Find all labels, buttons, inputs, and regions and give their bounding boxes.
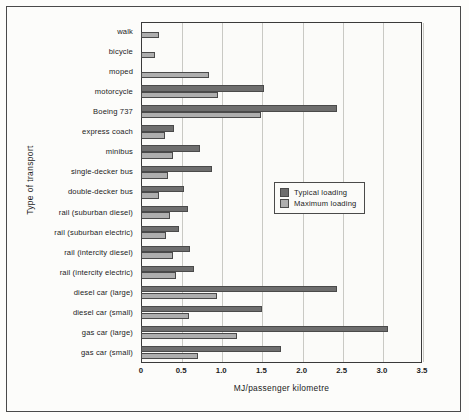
bar-maximum <box>141 52 155 58</box>
bar-maximum <box>141 313 189 319</box>
category-label: bicycle <box>109 42 133 62</box>
bar-typical <box>141 85 264 91</box>
category-label: express coach <box>82 122 133 142</box>
x-tick-label: 2.0 <box>296 366 307 375</box>
bar-typical <box>141 226 179 232</box>
bar-maximum <box>141 92 218 98</box>
category-label: diesel car (small) <box>73 303 133 323</box>
legend-item-typical: Typical loading <box>280 187 357 198</box>
bar-maximum <box>141 232 166 238</box>
category-label: rail (intercity diesel) <box>64 243 133 263</box>
bar-maximum <box>141 32 159 38</box>
bar-typical <box>141 105 337 111</box>
bar-group <box>141 283 422 303</box>
bar-group <box>141 162 422 182</box>
x-tick-label: 3.5 <box>417 366 428 375</box>
bar-maximum <box>141 132 165 138</box>
bar-typical <box>141 125 174 131</box>
bar-group <box>141 102 422 122</box>
bar-typical <box>141 346 281 352</box>
bar-group <box>141 22 422 42</box>
bar-typical <box>141 306 262 312</box>
bar-typical <box>141 166 212 172</box>
bar-typical <box>141 326 388 332</box>
x-tick-label: 0 <box>139 366 143 375</box>
legend: Typical loading Maximum loading <box>274 182 365 214</box>
bar-maximum <box>141 192 159 198</box>
category-axis-labels: walkbicyclemopedmotorcycleBoeing 737expr… <box>30 22 137 363</box>
bar-group <box>141 343 422 363</box>
y-axis-title: Type of transport <box>25 120 35 240</box>
category-label: gas car (large) <box>82 323 133 343</box>
category-label: minibus <box>106 142 133 162</box>
x-tick-label: 2.5 <box>336 366 347 375</box>
bar-group <box>141 142 422 162</box>
bar-maximum <box>141 112 261 118</box>
legend-item-maximum: Maximum loading <box>280 198 357 209</box>
chart-page: walkbicyclemopedmotorcycleBoeing 737expr… <box>0 0 469 420</box>
bar-typical <box>141 246 190 252</box>
bar-typical <box>141 206 188 212</box>
x-tick-label: 1.0 <box>216 366 227 375</box>
category-label: diesel car (large) <box>74 283 133 303</box>
legend-swatch-typical <box>280 188 289 197</box>
legend-label-typical: Typical loading <box>294 188 347 197</box>
bar-maximum <box>141 293 217 299</box>
gridline <box>423 23 424 362</box>
bar-typical <box>141 286 337 292</box>
bar-group <box>141 303 422 323</box>
bar-group <box>141 62 422 82</box>
category-label: Boeing 737 <box>93 102 133 122</box>
x-axis-title: MJ/passenger kilometre <box>141 383 422 393</box>
bar-maximum <box>141 212 170 218</box>
x-tick-label: 0.5 <box>176 366 187 375</box>
category-label: rail (suburban electric) <box>54 223 133 243</box>
bar-maximum <box>141 172 168 178</box>
category-label: rail (suburban diesel) <box>59 203 133 223</box>
bar-maximum <box>141 252 173 258</box>
x-axis-ticks: 00.51.01.52.02.53.03.5 <box>141 366 422 380</box>
category-label: motorcycle <box>95 82 133 102</box>
bar-group <box>141 243 422 263</box>
bar-group <box>141 42 422 62</box>
bar-group <box>141 222 422 242</box>
bar-typical <box>141 186 184 192</box>
bar-maximum <box>141 272 176 278</box>
bar-maximum <box>141 353 198 359</box>
legend-swatch-maximum <box>280 199 289 208</box>
category-label: single-decker bus <box>71 162 133 182</box>
bar-group <box>141 122 422 142</box>
category-label: moped <box>109 62 133 82</box>
x-tick-label: 1.5 <box>256 366 267 375</box>
x-tick-label: 3.0 <box>376 366 387 375</box>
bar-group <box>141 263 422 283</box>
legend-label-maximum: Maximum loading <box>294 199 357 208</box>
category-label: walk <box>117 22 133 42</box>
category-label: double-decker bus <box>68 182 133 202</box>
category-label: gas car (small) <box>81 343 133 363</box>
bar-group <box>141 323 422 343</box>
bar-typical <box>141 145 200 151</box>
category-label: rail (intercity electric) <box>60 263 133 283</box>
bar-typical <box>141 266 194 272</box>
bar-group <box>141 82 422 102</box>
bar-maximum <box>141 72 209 78</box>
bar-maximum <box>141 333 237 339</box>
bar-maximum <box>141 152 173 158</box>
